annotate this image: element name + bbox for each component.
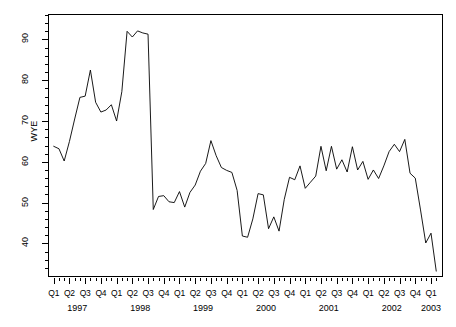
x-tick <box>80 278 81 281</box>
x-tick <box>164 278 165 284</box>
x-year-label: 2000 <box>249 303 283 313</box>
series-line-wye <box>49 15 442 276</box>
x-tick <box>200 278 201 281</box>
x-tick <box>284 278 285 281</box>
x-tick <box>211 278 212 284</box>
x-tick <box>436 278 437 281</box>
x-tick <box>143 278 144 281</box>
chart-root: WYE 405060708090 Q1Q2Q3Q4Q1Q2Q3Q4Q1Q2Q3Q… <box>0 0 456 327</box>
x-year-label: 2002 <box>375 303 409 313</box>
x-tick <box>405 278 406 281</box>
x-tick <box>295 278 296 281</box>
x-tick <box>69 278 70 284</box>
x-tick <box>127 278 128 281</box>
x-tick <box>117 278 118 284</box>
x-tick <box>358 278 359 281</box>
x-tick <box>185 278 186 281</box>
x-tick <box>75 278 76 281</box>
x-tick <box>352 278 353 284</box>
x-tick <box>221 278 222 281</box>
x-tick <box>384 278 385 284</box>
x-tick <box>59 278 60 281</box>
x-tick <box>426 278 427 281</box>
x-tick <box>253 278 254 281</box>
x-tick <box>263 278 264 281</box>
x-tick <box>148 278 149 284</box>
x-tick <box>389 278 390 281</box>
x-tick <box>122 278 123 281</box>
x-tick <box>394 278 395 281</box>
x-tick <box>421 278 422 281</box>
x-tick <box>132 278 133 284</box>
x-tick <box>190 278 191 281</box>
x-tick <box>216 278 217 281</box>
x-tick <box>415 278 416 284</box>
y-tick-label: 80 <box>20 68 30 90</box>
y-tick-label: 50 <box>20 191 30 213</box>
x-tick <box>274 278 275 284</box>
x-tick <box>232 278 233 281</box>
x-tick <box>379 278 380 281</box>
y-tick-label: 40 <box>20 231 30 253</box>
plot-area <box>48 14 443 277</box>
x-year-label: 1997 <box>60 303 94 313</box>
x-tick <box>106 278 107 281</box>
x-tick <box>227 278 228 284</box>
x-tick <box>96 278 97 281</box>
y-tick-label: 70 <box>20 109 30 131</box>
x-tick <box>169 278 170 281</box>
x-tick <box>347 278 348 281</box>
x-tick <box>316 278 317 281</box>
x-tick <box>159 278 160 281</box>
x-tick <box>85 278 86 284</box>
x-tick <box>174 278 175 281</box>
y-tick-label: 60 <box>20 150 30 172</box>
x-tick <box>101 278 102 284</box>
x-tick <box>368 278 369 284</box>
x-tick <box>321 278 322 284</box>
x-tick <box>431 278 432 284</box>
x-year-label: 1999 <box>186 303 220 313</box>
x-tick <box>179 278 180 284</box>
x-tick <box>242 278 243 284</box>
x-tick <box>337 278 338 284</box>
x-tick <box>300 278 301 281</box>
x-tick <box>279 278 280 281</box>
x-tick <box>138 278 139 281</box>
x-quarter-label: Q1 <box>420 288 442 298</box>
x-year-label: 2001 <box>312 303 346 313</box>
x-tick <box>326 278 327 281</box>
x-tick <box>206 278 207 281</box>
x-year-label: 1998 <box>123 303 157 313</box>
y-tick-label: 90 <box>20 27 30 49</box>
y-axis-title: WYE <box>29 101 39 161</box>
x-tick <box>410 278 411 281</box>
x-tick <box>153 278 154 281</box>
x-tick <box>248 278 249 281</box>
x-tick <box>195 278 196 284</box>
x-tick <box>400 278 401 284</box>
x-tick <box>269 278 270 281</box>
x-tick <box>363 278 364 281</box>
x-tick <box>54 278 55 284</box>
x-tick <box>237 278 238 281</box>
x-tick <box>310 278 311 281</box>
x-tick <box>331 278 332 281</box>
x-tick <box>90 278 91 281</box>
x-tick <box>64 278 65 281</box>
x-tick <box>373 278 374 281</box>
x-tick <box>111 278 112 281</box>
x-tick <box>290 278 291 284</box>
x-tick <box>342 278 343 281</box>
x-tick <box>305 278 306 284</box>
x-year-label: 2003 <box>414 303 448 313</box>
x-tick <box>258 278 259 284</box>
